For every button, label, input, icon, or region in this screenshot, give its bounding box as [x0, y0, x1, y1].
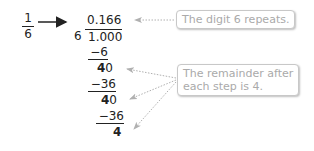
- arrow-remainder-1: [127, 69, 176, 78]
- arrow-remainder-3: [134, 82, 176, 129]
- arrows-layer: [0, 0, 314, 151]
